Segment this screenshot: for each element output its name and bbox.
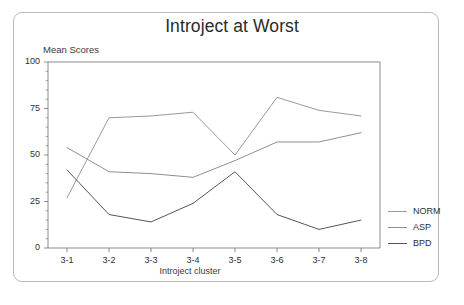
legend-item-asp[interactable]: ASP xyxy=(388,219,458,235)
y-tick-label: 100 xyxy=(14,56,40,66)
legend-line-icon xyxy=(388,227,407,228)
x-tick-label: 3-2 xyxy=(91,255,127,265)
series-line-asp xyxy=(67,133,361,178)
legend-label: NORM xyxy=(413,206,441,216)
y-tick-label: 50 xyxy=(14,149,40,159)
legend-line-icon xyxy=(388,211,407,212)
x-tick-label: 3-1 xyxy=(49,255,85,265)
legend-item-bpd[interactable]: BPD xyxy=(388,235,458,251)
series-line-norm xyxy=(67,97,361,197)
x-tick-label: 3-4 xyxy=(175,255,211,265)
y-tick-label: 75 xyxy=(14,103,40,113)
x-tick-label: 3-7 xyxy=(301,255,337,265)
chart-figure: Introject at Worst Mean Scores 025507510… xyxy=(0,0,464,305)
y-tick-label: 0 xyxy=(14,242,40,252)
x-tick-label: 3-5 xyxy=(217,255,253,265)
legend-item-norm[interactable]: NORM xyxy=(388,203,458,219)
chart-legend: NORMASPBPD xyxy=(388,203,458,251)
x-tick-label: 3-6 xyxy=(259,255,295,265)
x-tick-label: 3-3 xyxy=(133,255,169,265)
series-line-bpd xyxy=(67,170,361,230)
legend-line-icon xyxy=(388,243,407,244)
legend-label: ASP xyxy=(413,222,431,232)
x-tick-label: 3-8 xyxy=(343,255,379,265)
legend-label: BPD xyxy=(413,238,432,248)
y-tick-label: 25 xyxy=(14,196,40,206)
x-axis-label: Introject cluster xyxy=(0,266,380,276)
plot-frame xyxy=(48,62,380,248)
